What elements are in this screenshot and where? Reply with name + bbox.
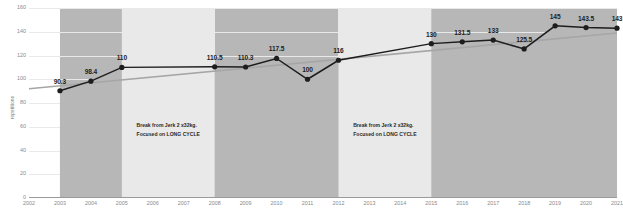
x-tick-label: 2016 (456, 200, 468, 206)
data-point-label: 130 (426, 31, 437, 38)
y-axis-title: repetitions (10, 73, 15, 143)
data-point-label: 100 (302, 66, 313, 73)
data-point-marker[interactable] (583, 25, 588, 30)
data-point-label: 145 (550, 13, 561, 20)
data-point-label: 98.4 (85, 68, 97, 75)
data-point-marker[interactable] (243, 64, 248, 69)
x-tick-label: 2007 (178, 200, 190, 206)
x-tick-label: 2019 (549, 200, 561, 206)
y-tick-label: 20 (2, 171, 26, 176)
x-axis: 2002200320042005200620072008200920102011… (29, 200, 617, 218)
data-point-label: 110.3 (238, 54, 254, 61)
data-point-marker[interactable] (88, 79, 93, 84)
data-point-label: 117.5 (269, 45, 285, 52)
x-tick-label: 2006 (147, 200, 159, 206)
break-band-overlay (122, 8, 215, 198)
data-point-label: 143 (612, 15, 623, 22)
x-tick-label: 2021 (611, 200, 623, 206)
x-tick-label: 2020 (580, 200, 592, 206)
data-point-marker[interactable] (305, 77, 310, 82)
data-point-marker[interactable] (274, 56, 279, 61)
x-axis-line (29, 197, 617, 198)
data-point-marker[interactable] (57, 88, 62, 93)
data-point-marker[interactable] (336, 58, 341, 63)
period-annotation: Break from Jerk 2 x32kg.Focused on LONG … (137, 121, 200, 140)
annotation-line-1: Break from Jerk 2 x32kg. (353, 121, 416, 130)
x-tick-label: 2014 (394, 200, 406, 206)
annotation-line-2: Focused on LONG CYCLE (137, 130, 200, 139)
data-point-marker[interactable] (460, 39, 465, 44)
y-tick-label: 120 (2, 53, 26, 58)
data-point-label: 110 (117, 54, 127, 61)
break-band-overlay (338, 8, 431, 198)
y-tick-label: 140 (2, 29, 26, 34)
x-tick-label: 2005 (116, 200, 128, 206)
x-tick-label: 2012 (332, 200, 344, 206)
y-tick-label: 80 (2, 100, 26, 105)
data-point-marker[interactable] (614, 26, 619, 31)
y-tick-label: 160 (2, 5, 26, 10)
data-point-marker[interactable] (212, 64, 217, 69)
y-tick-label: 100 (2, 76, 26, 81)
data-point-marker[interactable] (429, 41, 434, 46)
chart-container: repetitions 160140120100806040200 Break … (0, 0, 623, 222)
data-point-marker[interactable] (491, 37, 496, 42)
y-tick-label: 40 (2, 148, 26, 153)
plot-area: Break from Jerk 2 x32kg.Focused on LONG … (29, 8, 617, 198)
x-tick-label: 2018 (518, 200, 530, 206)
data-point-label: 116 (333, 47, 343, 54)
y-tick-label: 60 (2, 124, 26, 129)
data-point-label: 125.5 (516, 36, 532, 43)
data-point-label: 90.3 (54, 78, 66, 85)
data-point-label: 110.5 (207, 54, 223, 61)
data-point-marker[interactable] (119, 65, 124, 70)
x-tick-label: 2017 (487, 200, 499, 206)
data-point-label: 131.5 (454, 29, 470, 36)
period-annotation: Break from Jerk 2 x32kg.Focused on LONG … (353, 121, 416, 140)
data-point-label: 143.5 (578, 15, 594, 22)
x-tick-label: 2002 (23, 200, 35, 206)
data-point-marker[interactable] (553, 23, 558, 28)
x-tick-label: 2010 (271, 200, 283, 206)
x-tick-label: 2003 (54, 200, 66, 206)
x-tick-label: 2004 (85, 200, 97, 206)
annotation-line-1: Break from Jerk 2 x32kg. (137, 121, 200, 130)
x-tick-label: 2011 (302, 200, 314, 206)
y-axis: repetitions 160140120100806040200 (0, 0, 26, 222)
data-point-marker[interactable] (522, 46, 527, 51)
x-tick-label: 2015 (425, 200, 437, 206)
x-tick-label: 2008 (209, 200, 221, 206)
x-tick-label: 2009 (240, 200, 252, 206)
annotation-line-2: Focused on LONG CYCLE (353, 130, 416, 139)
data-point-label: 133 (488, 27, 499, 34)
x-tick-label: 2013 (363, 200, 375, 206)
